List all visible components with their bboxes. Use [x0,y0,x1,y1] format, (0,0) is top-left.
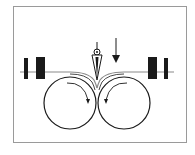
right-roller-rotation-arrow [106,83,127,100]
right-guide-thin [164,58,168,79]
left-guide-thin [24,58,28,79]
left-guide-thick [36,57,45,79]
razor-blade [92,42,102,80]
right-rotation-arrowhead-icon [104,99,108,104]
left-rotation-arrowhead-icon [86,99,90,104]
feed-arrow-down-icon [112,55,120,63]
right-guide-thick [148,57,157,79]
slitting-diagram [0,0,195,155]
left-roller-rotation-arrow [67,83,88,100]
